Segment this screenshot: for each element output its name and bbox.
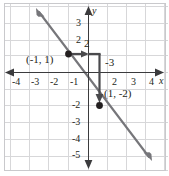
- x-tick-4: 4: [149, 77, 154, 87]
- slope-run-label: 2: [84, 38, 90, 49]
- graph-figure: -4 -3 -2 -1 2 3 4 3 2 -2 -3 -4 -5 x y (-…: [0, 0, 169, 176]
- y-tick-2: 2: [76, 35, 81, 45]
- point-b-label: (1, -2): [104, 88, 132, 99]
- x-axis-label: x: [159, 76, 163, 86]
- y-tick--5: -5: [72, 150, 80, 160]
- x-tick--1: -1: [70, 77, 78, 87]
- y-tick--2: -2: [72, 100, 80, 110]
- point-b-dot: [96, 102, 103, 109]
- y-tick--3: -3: [72, 117, 80, 127]
- x-tick--3: -3: [31, 77, 39, 87]
- x-tick--4: -4: [12, 77, 20, 87]
- point-a-dot: [65, 51, 72, 58]
- x-tick-2: 2: [112, 77, 117, 87]
- y-tick-3: 3: [76, 18, 81, 28]
- coordinate-plane-svg: [0, 0, 169, 176]
- point-a-label: (-1, 1): [26, 54, 54, 65]
- y-axis-label: y: [92, 6, 96, 16]
- y-tick--4: -4: [72, 134, 80, 144]
- slope-rise-label: -3: [105, 57, 114, 68]
- x-tick-3: 3: [131, 77, 136, 87]
- x-tick--2: -2: [50, 77, 58, 87]
